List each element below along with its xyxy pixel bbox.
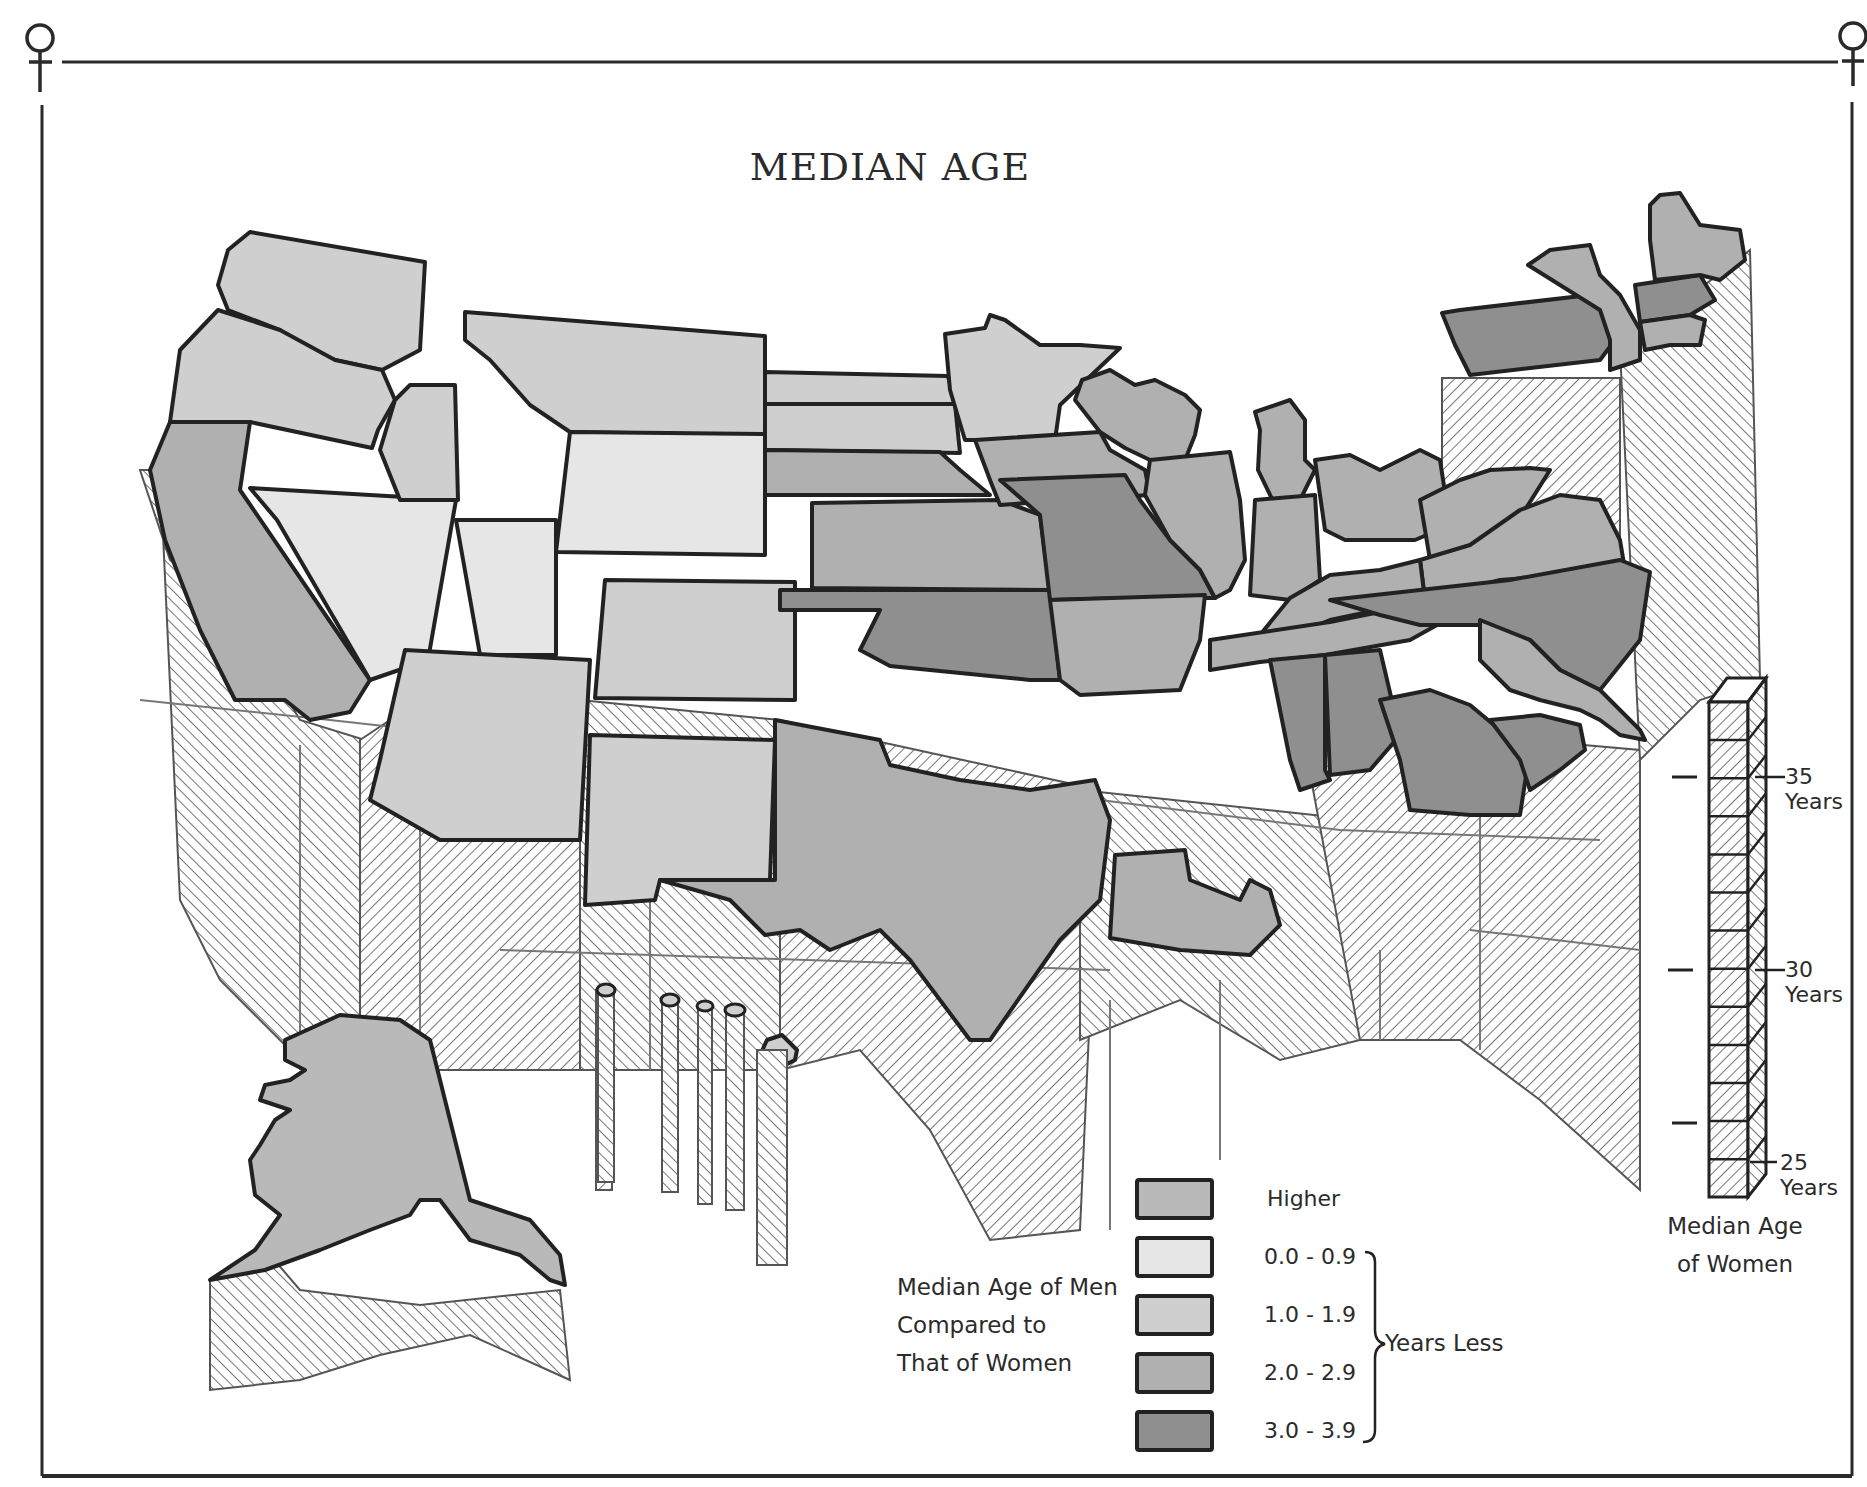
state-colorado <box>595 580 795 700</box>
scale-caption: Median Age of Women <box>1660 1207 1810 1283</box>
legend-swatch-higher <box>1137 1180 1212 1218</box>
alaska-sides <box>210 1255 570 1390</box>
map-title: MEDIAN AGE <box>0 145 1780 189</box>
legend-caption: Median Age of Men Compared to That of Wo… <box>897 1268 1118 1382</box>
legend-caption-line-3: That of Women <box>897 1344 1118 1382</box>
state-new-england-south <box>1640 315 1705 350</box>
years-less-bracket <box>1363 1252 1385 1442</box>
state-wyoming <box>556 432 765 555</box>
scale-tick-35-value: 35 <box>1785 764 1843 789</box>
state-utah <box>456 520 556 655</box>
state-pennsylvania <box>1442 295 1615 375</box>
legend-label-range-1: 1.0 - 1.9 <box>1264 1302 1356 1327</box>
state-mississippi <box>1270 655 1330 790</box>
median-age-scale-column <box>1668 678 1785 1197</box>
state-michigan <box>1255 400 1315 505</box>
scale-caption-line-1: Median Age <box>1660 1207 1810 1245</box>
scale-tick-25-unit: Years <box>1780 1175 1838 1200</box>
scale-caption-line-2: of Women <box>1660 1245 1810 1283</box>
legend-swatch-range-1-0-1-9 <box>1137 1296 1212 1334</box>
legend-swatches <box>1137 1180 1212 1450</box>
legend-swatch-range-0-0-9 <box>1137 1238 1212 1276</box>
state-nebraska <box>765 450 990 495</box>
scale-tick-30: 30 Years <box>1785 957 1843 1007</box>
legend-label-range-3: 3.0 - 3.9 <box>1264 1418 1356 1443</box>
state-indiana <box>1250 495 1320 600</box>
state-north-dakota <box>765 372 955 404</box>
state-south-dakota <box>765 404 960 453</box>
scale-tick-30-unit: Years <box>1785 982 1843 1007</box>
state-arizona <box>370 650 590 840</box>
years-less-label: Years Less <box>1385 1330 1504 1356</box>
legend-swatch-range-3-0-3-9 <box>1137 1412 1212 1450</box>
legend-label-range-0: 0.0 - 0.9 <box>1264 1244 1356 1269</box>
state-oklahoma <box>780 590 1060 680</box>
legend-caption-line-2: Compared to <box>897 1306 1118 1344</box>
legend-swatch-range-2-0-2-9 <box>1137 1354 1212 1392</box>
median-age-map <box>0 0 1867 1487</box>
state-maine <box>1650 193 1745 280</box>
legend-label-range-2: 2.0 - 2.9 <box>1264 1360 1356 1385</box>
scale-tick-35-unit: Years <box>1785 789 1843 814</box>
female-symbol-icon-right <box>1840 23 1866 86</box>
scale-tick-30-value: 30 <box>1785 957 1843 982</box>
legend-label-higher: Higher <box>1267 1186 1340 1211</box>
state-kansas <box>812 500 1050 590</box>
scale-tick-35: 35 Years <box>1785 764 1843 814</box>
legend-caption-line-1: Median Age of Men <box>897 1268 1118 1306</box>
female-symbol-icon-left <box>27 25 53 92</box>
scale-tick-25: 25 Years <box>1780 1150 1838 1200</box>
scale-tick-25-value: 25 <box>1780 1150 1838 1175</box>
state-montana <box>465 312 765 434</box>
state-arkansas <box>1050 595 1205 695</box>
